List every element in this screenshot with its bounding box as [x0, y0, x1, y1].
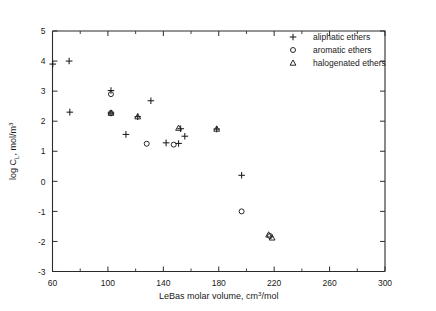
y-tick-label: 4	[41, 56, 46, 66]
x-axis-title: LeBas molar volume, cm3/mol	[159, 290, 279, 301]
y-tick-label: 1	[41, 146, 46, 156]
x-tick-label: 220	[267, 278, 281, 288]
chart-page: 60100140180220260300-3-2-1012345 aliphat…	[0, 0, 436, 311]
scatter-plot: 60100140180220260300-3-2-1012345 aliphat…	[0, 0, 436, 311]
point-aliphatic	[238, 172, 245, 179]
point-aromatic	[144, 141, 149, 146]
point-aromatic	[239, 209, 244, 214]
y-tick-label: 2	[41, 116, 46, 126]
point-aliphatic	[123, 131, 130, 138]
x-tick-label: 300	[378, 278, 392, 288]
point-aliphatic	[66, 58, 73, 65]
legend-marker-halogenated	[290, 60, 296, 65]
x-tick-label: 100	[101, 278, 115, 288]
point-aliphatic	[163, 140, 170, 147]
point-aromatic	[171, 142, 176, 147]
axis-titles: LeBas molar volume, cm3/mollog CL, mol/m…	[7, 122, 279, 301]
data-points	[49, 58, 275, 240]
legend-label: halogenated ethers	[313, 58, 386, 68]
legend-marker-aliphatic	[290, 34, 297, 41]
point-aliphatic	[182, 133, 189, 140]
y-tick-label: 3	[41, 86, 46, 96]
y-tick-label: -2	[38, 237, 46, 247]
x-tick-label: 140	[156, 278, 170, 288]
y-tick-label: -3	[38, 267, 46, 277]
legend-marker-aromatic	[291, 48, 296, 53]
x-tick-label: 180	[212, 278, 226, 288]
legend-label: aromatic ethers	[313, 45, 372, 55]
x-tick-label: 60	[48, 278, 58, 288]
point-aliphatic	[49, 61, 56, 68]
legend-label: aliphatic ethers	[313, 32, 370, 42]
y-tick-label: -1	[38, 207, 46, 217]
y-tick-label: 5	[41, 26, 46, 36]
point-aliphatic	[67, 109, 74, 116]
point-aliphatic	[148, 97, 155, 104]
x-tick-label: 260	[322, 278, 336, 288]
y-axis-title: log CL, mol/m3	[7, 122, 20, 180]
chart-legend: aliphatic ethersaromatic ethershalogenat…	[290, 32, 386, 68]
y-tick-label: 0	[41, 177, 46, 187]
